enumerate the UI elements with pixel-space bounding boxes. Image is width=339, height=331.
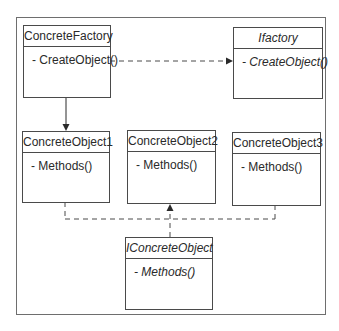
class-concrete-object1: ConcreteObject1 - Methods()	[22, 131, 110, 203]
class-concrete-object3: ConcreteObject3 - Methods()	[232, 132, 321, 206]
class-iconcrete-object: IConcreteObject - Methods()	[125, 237, 213, 310]
class-ifactory: Ifactory - CreateObject()	[233, 27, 323, 99]
class-member: - Methods()	[126, 259, 212, 279]
class-name: ConcreteFactory	[24, 26, 110, 47]
arrowhead-icon	[226, 58, 233, 65]
class-member: - Methods()	[233, 154, 320, 174]
class-member: - Methods()	[128, 152, 215, 172]
class-name: ConcreteObject2	[128, 131, 215, 152]
class-concrete-factory: ConcreteFactory - CreateObject()	[23, 25, 111, 98]
arrowhead-icon	[63, 124, 70, 131]
class-concrete-object2: ConcreteObject2 - Methods()	[127, 130, 216, 204]
class-name: ConcreteObject3	[233, 133, 320, 154]
class-member: - CreateObject()	[24, 47, 110, 67]
class-name: Ifactory	[234, 28, 322, 49]
class-name: ConcreteObject1	[23, 132, 109, 153]
class-member: - Methods()	[23, 153, 109, 173]
arrowhead-icon	[167, 204, 174, 211]
class-name: IConcreteObject	[126, 238, 212, 259]
class-member: - CreateObject()	[234, 49, 322, 69]
